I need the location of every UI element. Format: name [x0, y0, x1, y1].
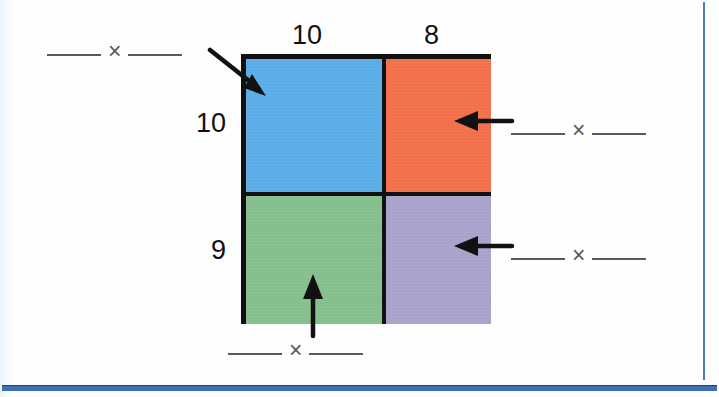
- multiplication-sign-icon: ×: [108, 40, 121, 63]
- arrow-to-bottom-right-cell: [452, 233, 514, 259]
- page-left-edge-tint: [0, 0, 14, 397]
- answer-prompt-top-left[interactable]: ×: [47, 38, 182, 61]
- area-cell-bottom-right[interactable]: [386, 196, 491, 324]
- answer-blank-right[interactable]: [309, 353, 363, 355]
- dimension-label-top-right: 8: [424, 22, 439, 49]
- answer-blank-right[interactable]: [592, 258, 646, 260]
- answer-blank-left[interactable]: [47, 54, 101, 56]
- arrow-to-bottom-left-cell: [300, 272, 326, 338]
- arrow-to-top-left-cell: [208, 48, 280, 104]
- answer-prompt-bottom-left[interactable]: ×: [228, 337, 363, 360]
- answer-prompt-bottom-right[interactable]: ×: [511, 242, 646, 265]
- answer-prompt-top-right[interactable]: ×: [511, 117, 646, 140]
- answer-blank-right[interactable]: [592, 133, 646, 135]
- worksheet-page: 10 8 10 9: [0, 0, 719, 397]
- dimension-label-top-left: 10: [292, 22, 322, 49]
- multiplication-sign-icon: ×: [572, 244, 585, 267]
- answer-blank-left[interactable]: [511, 258, 565, 260]
- answer-blank-right[interactable]: [128, 54, 182, 56]
- multiplication-sign-icon: ×: [572, 119, 585, 142]
- answer-blank-left[interactable]: [228, 353, 282, 355]
- page-right-rule: [703, 2, 705, 380]
- dimension-label-left-bottom: 9: [211, 237, 226, 264]
- multiplication-sign-icon: ×: [289, 339, 302, 362]
- page-bottom-rule: [2, 386, 717, 391]
- dimension-label-left-top: 10: [196, 110, 226, 137]
- arrow-to-top-right-cell: [452, 108, 514, 134]
- answer-blank-left[interactable]: [511, 133, 565, 135]
